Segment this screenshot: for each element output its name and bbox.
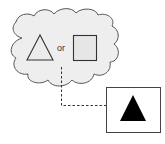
or-label: or: [57, 43, 65, 53]
square-option-icon: [74, 36, 97, 61]
diagram-canvas: or: [0, 0, 165, 144]
